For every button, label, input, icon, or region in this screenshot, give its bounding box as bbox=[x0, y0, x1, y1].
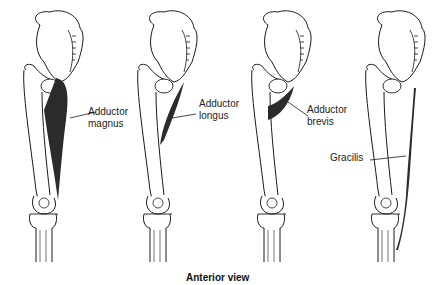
leader-line-brevis bbox=[288, 102, 308, 116]
panel-adductor-longus bbox=[138, 11, 197, 262]
label-line-2: brevis bbox=[307, 116, 347, 128]
label-gracilis: Gracilis bbox=[330, 152, 363, 164]
label-line-1: Gracilis bbox=[330, 152, 363, 164]
panel-adductor-brevis bbox=[252, 11, 311, 262]
label-line-2: longus bbox=[199, 110, 239, 122]
muscle-gracilis bbox=[396, 88, 416, 250]
label-adductor-brevis: Adductor brevis bbox=[307, 104, 347, 128]
panel-adductor-magnus bbox=[24, 11, 96, 262]
label-adductor-longus: Adductor longus bbox=[199, 98, 239, 122]
label-line-1: Adductor bbox=[88, 106, 128, 118]
label-line-1: Adductor bbox=[307, 104, 347, 116]
anatomy-diagram bbox=[0, 0, 448, 285]
figure-caption: Anterior view bbox=[186, 272, 249, 283]
leader-line-longus bbox=[172, 114, 196, 118]
label-adductor-magnus: Adductor magnus bbox=[88, 106, 128, 130]
panel-gracilis bbox=[366, 11, 425, 262]
label-line-1: Adductor bbox=[199, 98, 239, 110]
muscle-adductor-magnus bbox=[44, 78, 68, 200]
label-line-2: magnus bbox=[88, 118, 128, 130]
